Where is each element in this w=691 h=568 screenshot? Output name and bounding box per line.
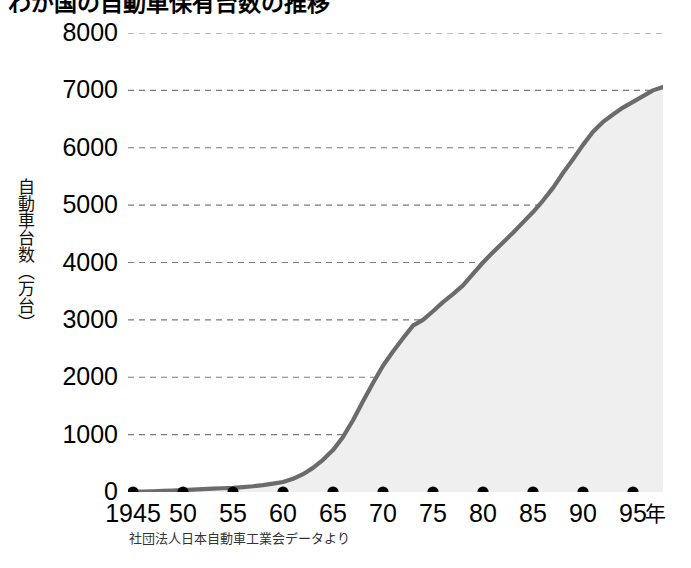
chart-figure: わが国の自動車保有台数の推移 自動車台数（万台） 800070006000500… — [0, 0, 691, 568]
x-tick-label: 75 — [419, 498, 447, 528]
source-note: 社団法人日本自動車工業会データより — [129, 531, 350, 547]
y-tick-label: 8000 — [0, 20, 118, 45]
y-tick-label: 1000 — [0, 422, 118, 447]
x-tick-label: 70 — [369, 498, 397, 528]
x-tick-label: 65 — [319, 498, 347, 528]
y-axis-tick-labels: 800070006000500040003000200010000 — [0, 0, 122, 492]
y-tick-label: 3000 — [0, 307, 118, 332]
x-tick-label: 90 — [569, 498, 597, 528]
y-tick-label: 2000 — [0, 364, 118, 389]
y-tick-label: 6000 — [0, 135, 118, 160]
x-tick-label: 1945 — [105, 498, 161, 528]
x-axis-unit-label: 年 — [645, 498, 666, 530]
x-tick-label: 55 — [219, 498, 247, 528]
x-tick-label: 60 — [269, 498, 297, 528]
y-tick-label: 7000 — [0, 77, 118, 102]
baseline-marker — [128, 486, 139, 492]
chart-canvas — [128, 33, 663, 492]
x-tick-label: 50 — [169, 498, 197, 528]
x-tick-label: 80 — [469, 498, 497, 528]
y-tick-label: 5000 — [0, 192, 118, 217]
baseline-marker — [177, 486, 188, 492]
x-axis-tick-labels: 194550556065707580859095年 — [0, 498, 691, 532]
plot-area — [128, 33, 663, 492]
x-tick-label: 95 — [619, 498, 647, 528]
x-tick-label: 85 — [519, 498, 547, 528]
y-tick-label: 4000 — [0, 250, 118, 275]
